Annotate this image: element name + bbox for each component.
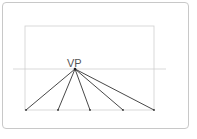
ground-point xyxy=(57,109,59,111)
picture-plane xyxy=(25,26,154,110)
perspective-diagram xyxy=(0,0,197,139)
ground-point xyxy=(122,109,124,111)
perspective-ray xyxy=(75,69,154,110)
vanishing-point-label: VP xyxy=(67,57,82,69)
perspective-ray xyxy=(58,69,75,110)
ground-point xyxy=(153,109,155,111)
perspective-ray xyxy=(26,69,75,110)
perspective-rays xyxy=(25,69,155,111)
ground-point xyxy=(89,109,91,111)
ground-point xyxy=(25,109,27,111)
